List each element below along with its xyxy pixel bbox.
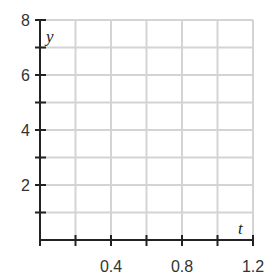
coordinate-grid-chart: 8 6 4 2 0.4 0.8 1.2 y t	[0, 0, 279, 280]
x-tick-label-1.2: 1.2	[242, 258, 264, 275]
y-axis-label: y	[44, 27, 54, 46]
x-axis	[39, 235, 254, 246]
x-tick-label-0.8: 0.8	[171, 258, 193, 275]
y-tick-label-8: 8	[21, 12, 30, 29]
x-axis-label: t	[238, 219, 244, 238]
y-tick-label-4: 4	[21, 122, 30, 139]
y-tick-label-6: 6	[21, 67, 30, 84]
x-tick-label-0.4: 0.4	[100, 258, 122, 275]
y-axis	[35, 19, 46, 241]
y-tick-label-2: 2	[21, 177, 30, 194]
